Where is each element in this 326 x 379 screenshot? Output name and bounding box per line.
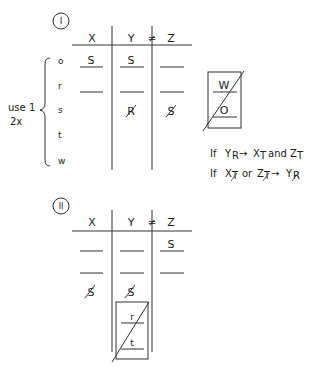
svg-text:or: or	[242, 168, 253, 179]
svg-text:→: →	[239, 148, 247, 159]
svg-text:T: T	[259, 150, 267, 161]
svg-text:If: If	[210, 168, 217, 179]
svg-text:Z: Z	[257, 168, 264, 179]
cell2-r1-z: S	[168, 238, 175, 251]
logic-game-diagram: I X Y ≠ Z o r s t w use 1 2x S S R S W O…	[0, 0, 326, 379]
brace-icon	[40, 58, 50, 166]
row-label-w: w	[58, 156, 65, 166]
svg-text:If: If	[210, 148, 217, 159]
svg-text:R: R	[232, 150, 239, 161]
inequality-sign: ≠	[148, 33, 156, 44]
cell2-r3-y-crossed: S	[128, 286, 135, 299]
row-label-t: t	[58, 130, 62, 140]
rule-2: If X T or Z T → Y R	[210, 168, 300, 181]
svg-text:X: X	[225, 168, 232, 179]
cell-s-z-crossed: S	[168, 105, 175, 118]
svg-text:→: →	[271, 168, 279, 179]
svg-text:X: X	[253, 148, 260, 159]
row-label-r: r	[58, 81, 62, 91]
diagram-2-label: II	[59, 202, 64, 211]
col-header-z: Z	[167, 32, 175, 45]
box-2-bottom: t	[130, 338, 134, 348]
svg-text:Y: Y	[285, 168, 293, 179]
side-note-line1: use 1	[8, 102, 35, 113]
col2-header-z: Z	[167, 216, 175, 229]
inequality-sign-2: ≠	[148, 217, 156, 228]
col-header-x: X	[88, 32, 96, 45]
cell-o-x: S	[88, 54, 95, 67]
cell2-r3-x-crossed: S	[88, 286, 95, 299]
diagram-1-label: I	[60, 16, 63, 26]
cell-o-y: S	[128, 54, 135, 67]
cell-s-y-crossed: R	[127, 105, 135, 118]
svg-text:T: T	[296, 150, 304, 161]
box-1-bottom: O	[220, 104, 229, 117]
side-note-line2: 2x	[10, 116, 22, 127]
box-2-top: r	[130, 312, 134, 322]
svg-text:and: and	[268, 148, 287, 159]
svg-text:Z: Z	[290, 148, 297, 159]
rule-1: If Y R → X T and Z T	[210, 148, 304, 161]
row-label-o: o	[58, 56, 64, 66]
col-header-y: Y	[127, 32, 135, 45]
col2-header-y: Y	[127, 216, 135, 229]
box-1-top: W	[219, 79, 230, 92]
col2-header-x: X	[88, 216, 96, 229]
svg-text:Y: Y	[224, 148, 232, 159]
row-label-s: s	[58, 105, 63, 115]
